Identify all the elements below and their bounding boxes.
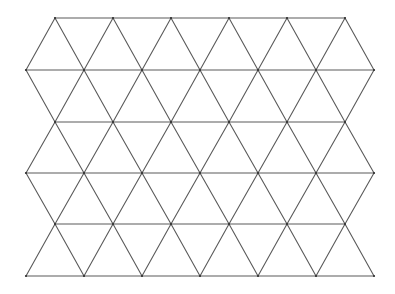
diagonal-edge (258, 18, 287, 70)
diagonal-edge (113, 224, 142, 276)
diagonal-edge (287, 122, 316, 173)
diagonal-edge (200, 18, 229, 70)
diagonal-edge (142, 18, 171, 70)
diagonal-edge (171, 173, 200, 224)
diagonal-edge (84, 224, 113, 276)
grid-vertex (257, 172, 259, 174)
grid-vertex (141, 275, 143, 277)
diagonal-edge (316, 70, 345, 122)
grid-vertex (286, 17, 288, 19)
grid-vertex (83, 172, 85, 174)
diagonal-edge (55, 224, 84, 276)
diagonal-edge (200, 70, 229, 122)
grid-vertex (373, 275, 375, 277)
diagonal-edge (258, 173, 287, 224)
diagonal-edge (258, 224, 287, 276)
diagonal-edge (316, 122, 345, 173)
diagonal-edge (113, 122, 142, 173)
diagonal-edge (84, 173, 113, 224)
diagonal-edge (55, 173, 84, 224)
grid-vertex (141, 172, 143, 174)
diagonal-edge (229, 70, 258, 122)
grid-vertex (315, 69, 317, 71)
grid-vertex (83, 69, 85, 71)
diagonal-edge (258, 70, 287, 122)
diagonal-edge (171, 18, 200, 70)
diagonal-edge (55, 18, 84, 70)
grid-vertex (25, 69, 27, 71)
grid-vertex (315, 172, 317, 174)
diagonal-edge (287, 173, 316, 224)
diagonal-edge (200, 224, 229, 276)
diagonal-edge (26, 18, 55, 70)
grid-vertex (25, 275, 27, 277)
grid-vertex (83, 275, 85, 277)
grid-vertex (373, 172, 375, 174)
diagonal-edge (316, 224, 345, 276)
grid-vertex (344, 223, 346, 225)
diagonal-edge (200, 173, 229, 224)
grid-vertex (257, 275, 259, 277)
diagonal-edge (345, 18, 374, 70)
triangle-grid-diagram (0, 0, 395, 294)
diagonal-edge (345, 122, 374, 173)
grid-vertices (25, 17, 375, 277)
diagonal-edge (26, 70, 55, 122)
diagonal-edge (316, 18, 345, 70)
diagonal-edge (287, 18, 316, 70)
diagonal-edge (229, 18, 258, 70)
diagonal-edge (84, 70, 113, 122)
diagonal-edge (171, 122, 200, 173)
diagonal-edge (142, 70, 171, 122)
diagonal-edge (142, 224, 171, 276)
grid-vertex (170, 121, 172, 123)
diagonal-edge (84, 122, 113, 173)
diagonal-edge (287, 70, 316, 122)
diagonal-edge (142, 122, 171, 173)
diagonal-edge (345, 173, 374, 224)
grid-vertex (54, 223, 56, 225)
grid-vertex (257, 69, 259, 71)
grid-vertex (170, 17, 172, 19)
diagonal-edge (113, 70, 142, 122)
diagonal-edge (345, 70, 374, 122)
grid-vertex (199, 275, 201, 277)
grid-vertex (199, 172, 201, 174)
diagonal-edge (345, 224, 374, 276)
diagonal-edge (287, 224, 316, 276)
diagonal-edge (200, 122, 229, 173)
grid-vertex (199, 69, 201, 71)
diagonal-edge (316, 173, 345, 224)
grid-vertex (344, 121, 346, 123)
grid-vertex (25, 172, 27, 174)
diagonal-edge (55, 122, 84, 173)
grid-vertex (228, 121, 230, 123)
grid-vertex (112, 121, 114, 123)
diagonal-edge (26, 122, 55, 173)
grid-vertex (286, 223, 288, 225)
grid-vertex (112, 223, 114, 225)
diagonal-edge (26, 224, 55, 276)
grid-vertex (315, 275, 317, 277)
diagonal-edge (142, 173, 171, 224)
grid-vertex (373, 69, 375, 71)
diagonal-edge (229, 173, 258, 224)
diagonal-edge (26, 173, 55, 224)
grid-vertex (228, 223, 230, 225)
diagonal-edge (113, 18, 142, 70)
diagonal-edge (258, 122, 287, 173)
grid-edges (26, 18, 374, 276)
diagonal-edge (113, 173, 142, 224)
grid-vertex (170, 223, 172, 225)
diagonal-edge (229, 224, 258, 276)
grid-vertex (344, 17, 346, 19)
grid-vertex (286, 121, 288, 123)
diagonal-edge (229, 122, 258, 173)
diagonal-edge (84, 18, 113, 70)
diagonal-edge (55, 70, 84, 122)
grid-vertex (54, 121, 56, 123)
diagonal-edge (171, 70, 200, 122)
grid-vertex (112, 17, 114, 19)
grid-vertex (54, 17, 56, 19)
grid-vertex (228, 17, 230, 19)
